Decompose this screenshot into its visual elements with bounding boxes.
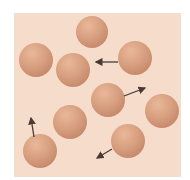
velocity-arrows bbox=[0, 0, 190, 180]
arrow-icon bbox=[124, 88, 145, 96]
arrow-icon bbox=[97, 149, 112, 158]
arrow-icon bbox=[31, 118, 34, 137]
